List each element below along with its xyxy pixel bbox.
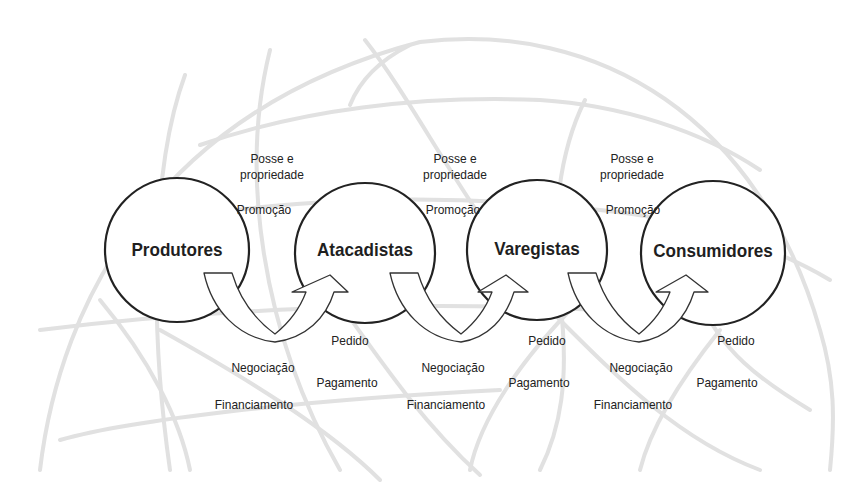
- flow-label-financiamento-3: Financiamento: [591, 397, 676, 413]
- node-label-atacadistas: Atacadistas: [317, 239, 413, 261]
- flow-label-negociacao-3: Negociação: [604, 360, 678, 376]
- posse-line2: propriedade: [600, 167, 664, 183]
- flow-label-promocao-2: Promoção: [421, 202, 485, 218]
- flow-label-financiamento-1: Financiamento: [212, 397, 297, 413]
- node-label-varegistas: Varegistas: [494, 238, 580, 260]
- posse-line2: propriedade: [423, 167, 487, 183]
- flow-label-pagamento-1: Pagamento: [315, 375, 379, 391]
- flow-label-pedido-2: Pedido: [524, 333, 570, 349]
- flow-label-pedido-1: Pedido: [327, 333, 373, 349]
- posse-line2: propriedade: [240, 167, 304, 183]
- flow-label-negociacao-1: Negociação: [226, 360, 300, 376]
- flow-label-posse-1: Posse e propriedade: [240, 151, 304, 183]
- flow-label-pagamento-3: Pagamento: [695, 375, 759, 391]
- flow-label-posse-2: Posse e propriedade: [423, 151, 487, 183]
- node-label-consumidores: Consumidores: [653, 240, 773, 262]
- node-label-produtores: Produtores: [131, 239, 222, 261]
- posse-line1: Posse e: [240, 151, 304, 167]
- flow-label-financiamento-2: Financiamento: [404, 397, 489, 413]
- flow-label-pagamento-2: Pagamento: [507, 375, 571, 391]
- flow-label-promocao-1: Promoção: [232, 202, 296, 218]
- u-arrow-3-icon: [568, 273, 708, 342]
- posse-line1: Posse e: [423, 151, 487, 167]
- flow-label-posse-3: Posse e propriedade: [600, 151, 664, 183]
- flow-label-promocao-3: Promoção: [601, 202, 665, 218]
- flow-label-pedido-3: Pedido: [713, 333, 759, 349]
- flow-label-negociacao-2: Negociação: [416, 360, 490, 376]
- posse-line1: Posse e: [600, 151, 664, 167]
